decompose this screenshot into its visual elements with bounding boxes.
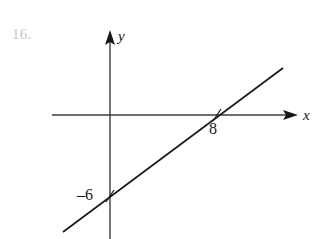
y-intercept-label: –6 [77, 187, 93, 203]
x-axis-label: x [303, 108, 310, 123]
linear-graph-figure [0, 0, 327, 239]
coordinate-plane-svg [0, 0, 327, 239]
x-intercept-label: 8 [209, 121, 217, 137]
y-axis-label: y [118, 29, 125, 44]
plotted-line [63, 68, 283, 232]
worksheet-page: 16. y x 8 –6 [0, 0, 327, 239]
